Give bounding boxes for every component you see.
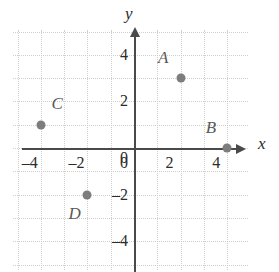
gridline-vertical xyxy=(18,30,19,270)
x-tick-label: –4 xyxy=(22,154,38,172)
grid-area xyxy=(13,30,248,270)
gridline-vertical xyxy=(41,30,42,270)
gridline-horizontal xyxy=(13,241,248,242)
y-axis-label: y xyxy=(125,4,133,24)
gridline-vertical xyxy=(64,30,65,270)
x-tick-label: 2 xyxy=(166,154,174,172)
point-label-a: A xyxy=(158,48,168,68)
x-tick-label: –2 xyxy=(68,154,84,172)
gridline-horizontal xyxy=(13,265,248,266)
x-tick-label: 4 xyxy=(212,154,220,172)
point-label-c: C xyxy=(51,94,62,114)
point-label-b: B xyxy=(206,118,216,138)
gridline-vertical xyxy=(204,30,205,270)
gridline-horizontal xyxy=(13,101,248,102)
y-tick-label: 2 xyxy=(100,92,128,110)
y-tick-label: –4 xyxy=(100,232,128,250)
data-point-a xyxy=(176,74,185,83)
gridline-horizontal xyxy=(13,195,248,196)
gridline-horizontal xyxy=(13,218,248,219)
y-tick-label: 0 xyxy=(100,149,128,167)
gridline-vertical xyxy=(87,30,88,270)
y-axis-arrow-icon xyxy=(130,27,140,37)
data-point-b xyxy=(223,144,232,153)
y-tick-label: 4 xyxy=(100,46,128,64)
x-axis-label: x xyxy=(258,134,266,154)
gridline-horizontal xyxy=(13,55,248,56)
gridline-vertical xyxy=(181,30,182,270)
coordinate-plane-figure: x y –4–2024 420–2–4 ABCD xyxy=(0,0,279,272)
data-point-d xyxy=(83,190,92,199)
y-axis-line xyxy=(134,36,136,272)
point-label-d: D xyxy=(68,204,80,224)
gridline-horizontal xyxy=(13,78,248,79)
x-axis-line xyxy=(22,148,237,150)
x-axis-arrow-icon xyxy=(236,144,246,154)
data-point-c xyxy=(36,120,45,129)
y-tick-label: –2 xyxy=(100,186,128,204)
